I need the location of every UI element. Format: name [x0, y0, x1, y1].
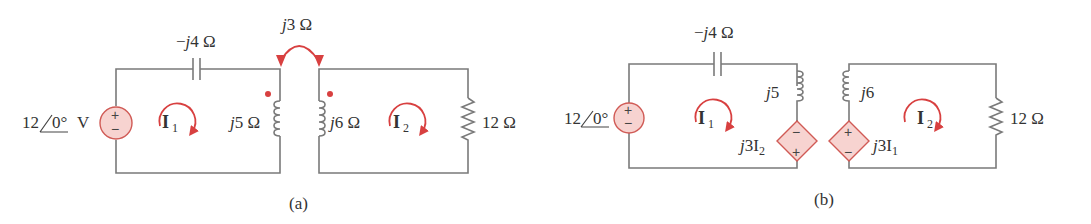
resistor-b	[990, 98, 1002, 140]
svg-text:1: 1	[708, 117, 714, 131]
inductor-b-2	[843, 71, 849, 121]
mesh-current-b-i2: I 2	[904, 99, 940, 131]
mesh-current-a-i1: I 1	[159, 103, 195, 135]
dependent-source-b-2: + −	[829, 121, 869, 161]
svg-text:−: −	[111, 121, 119, 137]
mesh-current-b-i1: I 1	[695, 99, 731, 131]
inductor-a-2-label: j6 Ω	[328, 113, 360, 132]
dependent-source-b-2-label: j3I1	[871, 136, 898, 158]
svg-text:I: I	[698, 108, 705, 128]
source-b-label: 12 0°	[564, 109, 609, 128]
resistor-a	[462, 98, 474, 150]
svg-text:2: 2	[403, 121, 409, 135]
inductor-a-1-label: j5 Ω	[228, 113, 260, 132]
dependent-source-b-1: − +	[777, 121, 817, 161]
caption-b: (b)	[814, 190, 834, 209]
inductor-a-2	[319, 101, 325, 136]
svg-text:1: 1	[172, 121, 178, 135]
svg-text:−: −	[792, 124, 800, 140]
inductor-b-2-label: j6	[859, 83, 874, 102]
svg-text:−: −	[844, 144, 852, 160]
caption-a: (a)	[289, 194, 308, 213]
wire-b-left-loop	[629, 64, 797, 168]
circuit-b: −j4 Ω + − 12 0° I 1 j5 − + j3I2	[564, 23, 1044, 209]
svg-text:2: 2	[927, 117, 933, 131]
svg-text:I: I	[917, 108, 924, 128]
capacitor-b	[714, 52, 721, 76]
inductor-b-1-label: j5	[764, 83, 779, 102]
svg-text:j3 Ω: j3 Ω	[280, 15, 312, 34]
source-a-label: 12 0° V	[22, 113, 90, 132]
inductor-a-1	[274, 101, 280, 136]
dot-a-2	[327, 91, 333, 97]
dependent-source-b-1-label: j3I2	[738, 136, 765, 158]
mutual-coupling-a: j3 Ω	[276, 15, 324, 67]
mesh-current-a-i2: I 2	[389, 103, 425, 135]
svg-text:−: −	[624, 115, 632, 131]
svg-text:12: 12	[22, 113, 39, 132]
resistor-b-label: 12 Ω	[1010, 109, 1044, 128]
svg-text:+: +	[792, 144, 800, 160]
svg-text:I: I	[393, 112, 400, 132]
capacitor-b-label: −j4 Ω	[694, 23, 734, 42]
capacitor-a-label: −j4 Ω	[176, 32, 216, 51]
inductor-b-1	[797, 71, 803, 121]
svg-text:12: 12	[564, 109, 581, 128]
voltage-source-b: + −	[614, 102, 644, 133]
capacitor-a	[193, 58, 200, 80]
svg-text:I: I	[162, 112, 169, 132]
resistor-a-label: 12 Ω	[482, 113, 516, 132]
svg-text:0°: 0°	[52, 113, 67, 132]
svg-text:+: +	[844, 124, 852, 140]
svg-text:0°: 0°	[593, 109, 608, 128]
svg-text:V: V	[77, 113, 90, 132]
voltage-source-a: + −	[100, 107, 132, 139]
circuit-figure: −j4 Ω + − 12 0° V I 1 j5 Ω	[0, 0, 1091, 224]
dot-a-1	[265, 91, 271, 97]
circuit-a: −j4 Ω + − 12 0° V I 1 j5 Ω	[22, 15, 516, 213]
